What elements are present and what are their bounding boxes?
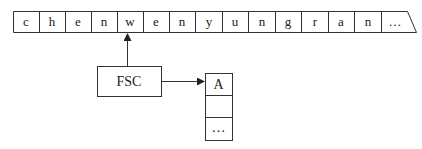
strip-cell-7: y [196, 15, 222, 28]
strip-cell-10: g [275, 15, 301, 28]
strip-cell-11: r [302, 15, 328, 28]
strip-cell-14: … [382, 15, 408, 28]
strip-cell-9: n [249, 15, 275, 28]
stack-cell-0: A [205, 78, 232, 92]
strip-cell-6: n [169, 15, 195, 28]
strip-cell-0: c [13, 15, 39, 28]
fsc-label: FSC [97, 75, 161, 89]
strip-cell-4: w [117, 15, 143, 28]
strip-cell-8: u [222, 15, 248, 28]
strip-cell-1: h [39, 15, 65, 28]
strip-cell-5: e [143, 15, 169, 28]
stack-cell-2: … [205, 121, 232, 135]
strip-cell-3: n [91, 15, 117, 28]
strip-cell-13: n [355, 15, 381, 28]
strip-cell-12: a [328, 15, 354, 28]
strip-cell-2: e [65, 15, 91, 28]
